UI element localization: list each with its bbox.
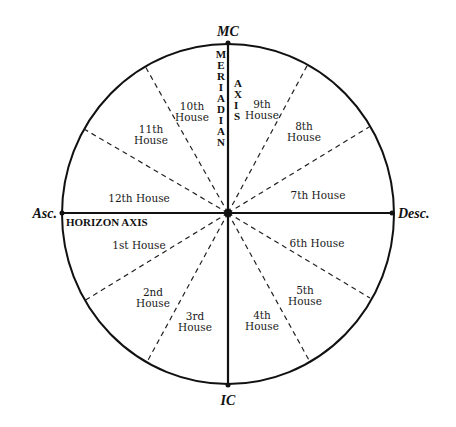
house-12-label: 12th House	[108, 192, 170, 204]
house-4-label-2: House	[245, 320, 279, 332]
axis-vertical-label: A X I S	[234, 77, 242, 122]
house-9-label-2: House	[245, 109, 279, 121]
desc-dot	[390, 211, 395, 216]
house-5-label-2: House	[288, 295, 322, 307]
meridian-label: M E R I A D I A N	[216, 48, 227, 148]
axis-letter: S	[234, 110, 240, 122]
asc-dot	[60, 211, 65, 216]
house-wheel-diagram: MC IC Asc. Desc. HORIZON AXIS M E R I A …	[0, 0, 456, 427]
house-10-label-2: House	[175, 111, 209, 123]
house-8-label-2: House	[287, 131, 321, 143]
house-3-label-2: House	[178, 321, 212, 333]
house-2-label-2: House	[136, 297, 170, 309]
center-dot	[224, 209, 232, 217]
house-1-label: 1st House	[112, 239, 165, 251]
ic-label: IC	[220, 393, 236, 408]
ic-dot	[226, 383, 231, 388]
horizon-axis-label: HORIZON AXIS	[66, 216, 148, 228]
asc-label: Asc.	[32, 206, 58, 221]
house-7-label: 7th House	[291, 189, 346, 201]
desc-label: Desc.	[397, 206, 430, 221]
mc-label: MC	[216, 24, 239, 39]
meridian-letter: N	[217, 136, 225, 148]
mc-dot	[226, 41, 231, 46]
house-11-label-2: House	[134, 134, 168, 146]
house-6-label: 6th House	[290, 237, 345, 249]
